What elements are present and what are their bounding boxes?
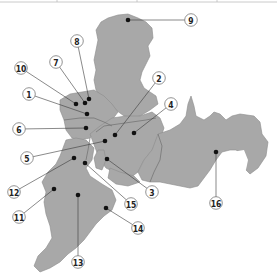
location-dot-icon[interactable]	[76, 193, 81, 198]
leader-line	[77, 41, 89, 99]
location-dot-icon[interactable]	[126, 18, 131, 23]
map-canvas: 12345678910111213141516	[0, 0, 277, 278]
marker-number-label: 12	[9, 188, 20, 198]
marker-number-label: 16	[211, 199, 222, 209]
location-dot-icon[interactable]	[72, 156, 77, 161]
location-dot-icon[interactable]	[52, 187, 57, 192]
location-dot-icon[interactable]	[83, 101, 88, 106]
marker-number-label: 2	[156, 74, 161, 84]
region-east	[138, 96, 268, 188]
location-dot-icon[interactable]	[85, 112, 90, 117]
location-dot-icon[interactable]	[104, 206, 109, 211]
location-dot-icon[interactable]	[84, 126, 89, 131]
marker-number-label: 5	[24, 154, 29, 164]
marker-number-label: 9	[188, 16, 193, 26]
region-map: 12345678910111213141516	[0, 0, 277, 278]
marker-number-label: 10	[16, 64, 27, 74]
marker-number-label: 4	[168, 100, 173, 110]
location-dot-icon[interactable]	[113, 133, 118, 138]
location-dot-icon[interactable]	[214, 150, 219, 155]
land-mass	[34, 14, 268, 272]
marker-number-label: 8	[74, 37, 79, 47]
marker-number-label: 6	[16, 125, 21, 135]
marker-number-label: 3	[149, 188, 154, 198]
marker-number-label: 14	[133, 224, 144, 234]
location-dot-icon[interactable]	[103, 139, 108, 144]
marker-number-label: 13	[73, 258, 84, 268]
location-dot-icon[interactable]	[83, 161, 88, 166]
location-dot-icon[interactable]	[105, 157, 110, 162]
marker-number-label: 1	[26, 90, 31, 100]
marker-number-label: 11	[14, 213, 25, 223]
location-dot-icon[interactable]	[74, 102, 79, 107]
location-dot-icon[interactable]	[87, 97, 92, 102]
map-marker-10[interactable]: 10	[15, 62, 79, 107]
peninsula-small	[94, 150, 106, 170]
location-dot-icon[interactable]	[132, 131, 137, 136]
marker-number-label: 15	[126, 200, 137, 210]
marker-number-label: 7	[53, 58, 58, 68]
